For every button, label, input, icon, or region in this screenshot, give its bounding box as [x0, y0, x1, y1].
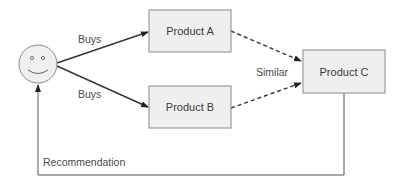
- smiley-face-icon: [19, 45, 57, 83]
- similar-label: Similar: [256, 66, 289, 78]
- product-b-node: Product B: [149, 86, 231, 128]
- edge-similar-b: [231, 83, 301, 108]
- buys-label-b: Buys: [78, 88, 101, 100]
- similar-arrow-b: [231, 83, 301, 108]
- recommendation-label: Recommendation: [43, 156, 125, 168]
- product-c-node: Product C: [303, 50, 385, 93]
- recommendation-diagram: Recommendation Buys Buys Similar Product…: [0, 0, 402, 184]
- user-node: [19, 45, 57, 83]
- product-a-node: Product A: [149, 10, 231, 52]
- product-c-label: Product C: [320, 66, 369, 78]
- buys-arrow-b: [57, 66, 148, 107]
- edge-buys-product-a: Buys: [57, 32, 148, 63]
- edge-similar-a: [231, 31, 301, 61]
- buys-label-a: Buys: [78, 33, 101, 45]
- product-b-label: Product B: [166, 101, 214, 113]
- similar-arrow-a: [231, 31, 301, 61]
- product-a-label: Product A: [166, 25, 214, 37]
- edge-buys-product-b: Buys: [57, 66, 148, 107]
- buys-arrow-a: [57, 32, 148, 63]
